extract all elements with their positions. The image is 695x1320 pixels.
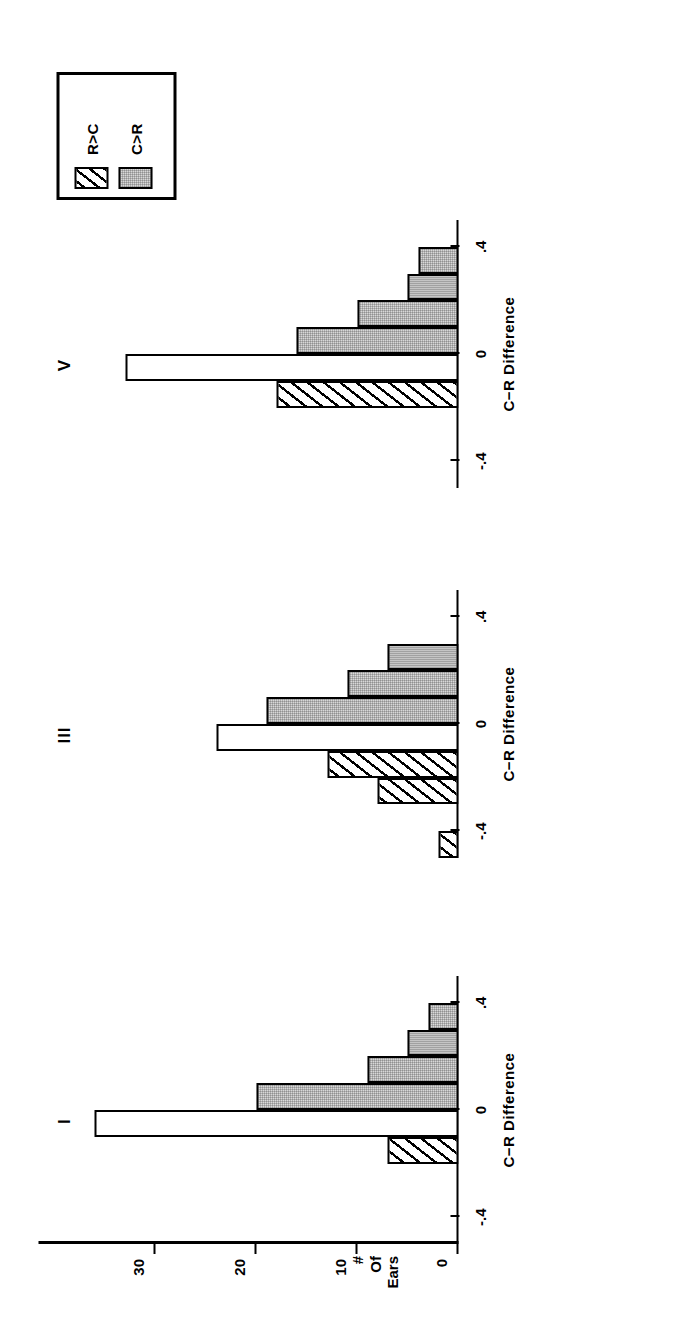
x-axis-label-V: C−R Difference	[499, 220, 516, 488]
x-tick-0-III	[450, 722, 459, 724]
panel-title-I: I	[54, 956, 74, 1286]
panel-V: V -.4 0 .4 C−R Difference	[60, 200, 530, 530]
bar-V-pos-2	[357, 300, 458, 327]
plot-area-III: -.4 0 .4 C−R Difference	[86, 590, 458, 858]
x-ticklabel-0-III: 0	[471, 720, 488, 728]
legend-label-c-gt-r: C>R	[127, 123, 144, 155]
y-ticklabel-20: 20	[231, 1259, 248, 1276]
y-ticklabel-0: 0	[433, 1259, 450, 1267]
panel-I: I 0 10 20 30 # Of Ears	[60, 956, 530, 1286]
y-tick-0	[456, 1244, 458, 1254]
bar-III-pos-1	[266, 697, 458, 724]
bar-III-neg-1	[438, 831, 458, 858]
x-tick-neg04-V	[450, 459, 459, 461]
bar-I-pos-1	[256, 1083, 458, 1110]
y-tick-group: 0 10 20 30	[38, 1245, 458, 1246]
y-tick-20	[254, 1244, 256, 1254]
x-tick-0-V	[450, 352, 459, 354]
x-tick-04-III	[450, 615, 459, 617]
y-axis-label-line-2: Of	[366, 1256, 383, 1320]
plot-area-I: 0 10 20 30 # Of Ears	[86, 976, 458, 1244]
bar-V-pos-1	[296, 327, 458, 354]
bar-III-neg-2	[377, 778, 458, 805]
panel-III: III -.4 0 .4 C−R Difference	[60, 570, 530, 900]
bar-V-neg-1	[276, 381, 458, 408]
x-tick-0-I	[450, 1108, 459, 1110]
bar-I-pos-3	[407, 1030, 458, 1057]
x-ticklabel-neg04-I: -.4	[471, 1208, 488, 1226]
x-axis-label-I: C−R Difference	[499, 976, 516, 1244]
legend-swatch-grey-icon	[118, 167, 152, 189]
x-tick-neg04-I	[450, 1215, 459, 1217]
y-axis-line-V	[38, 486, 458, 489]
x-axis-label-III: C−R Difference	[499, 590, 516, 858]
x-tick-04-I	[450, 1001, 459, 1003]
panel-title-III: III	[54, 570, 74, 900]
x-ticklabel-04-I: .4	[471, 997, 488, 1010]
bar-III-pos-2	[347, 670, 458, 697]
y-axis-label-line-3: Ears	[383, 1256, 400, 1320]
x-tick-04-V	[450, 245, 459, 247]
bar-I-neg-1	[387, 1137, 458, 1164]
x-ticklabel-neg04-V: -.4	[471, 452, 488, 470]
x-ticklabel-04-V: .4	[471, 241, 488, 254]
y-ticklabel-30: 30	[130, 1259, 147, 1276]
legend-row-c-gt-r: C>R	[113, 83, 157, 189]
legend: R>C C>R	[56, 72, 176, 200]
figure: I 0 10 20 30 # Of Ears	[0, 0, 695, 1320]
legend-row-r-gt-c: R>C	[69, 83, 113, 189]
plot-area-V: -.4 0 .4 C−R Difference	[86, 220, 458, 488]
y-axis-line-III	[38, 856, 458, 859]
y-axis-label-line-1: #	[348, 1256, 365, 1320]
x-ticklabel-0-V: 0	[471, 350, 488, 358]
legend-label-r-gt-c: R>C	[83, 123, 100, 155]
bar-V-pos-3	[407, 274, 458, 301]
bar-I-pos-4	[428, 1003, 458, 1030]
bar-V-zero	[125, 354, 458, 381]
y-tick-30	[153, 1244, 155, 1254]
x-tick-neg04-III	[450, 829, 459, 831]
y-ticklabel-10: 10	[332, 1259, 349, 1276]
x-ticklabel-0-I: 0	[471, 1106, 488, 1114]
panel-title-V: V	[54, 200, 74, 530]
y-axis-line	[38, 1242, 458, 1245]
y-axis-label: # Of Ears	[348, 1256, 400, 1320]
bar-III-neg-3	[327, 751, 458, 778]
y-tick-10	[355, 1244, 357, 1254]
legend-swatch-hatched-icon	[74, 167, 108, 189]
x-ticklabel-04-III: .4	[471, 611, 488, 624]
bar-I-zero	[94, 1110, 458, 1137]
bar-III-pos-3	[387, 644, 458, 671]
x-ticklabel-neg04-III: -.4	[471, 822, 488, 840]
bar-I-pos-2	[367, 1056, 458, 1083]
bar-V-pos-4	[418, 247, 458, 274]
rotated-figure-wrapper: I 0 10 20 30 # Of Ears	[0, 0, 695, 1320]
bar-III-zero	[216, 724, 458, 751]
